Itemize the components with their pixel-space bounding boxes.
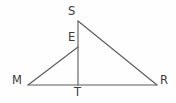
vertex-label-s: S xyxy=(68,6,75,18)
vertex-label-m: M xyxy=(12,75,22,87)
segment-me xyxy=(28,47,78,85)
vertex-label-r: R xyxy=(160,75,168,87)
geometry-figure: S E M T R xyxy=(0,0,176,103)
segment-sr xyxy=(78,21,157,85)
vertex-label-e: E xyxy=(68,32,75,44)
vertex-label-t: T xyxy=(74,87,81,99)
geometry-canvas xyxy=(0,0,176,103)
